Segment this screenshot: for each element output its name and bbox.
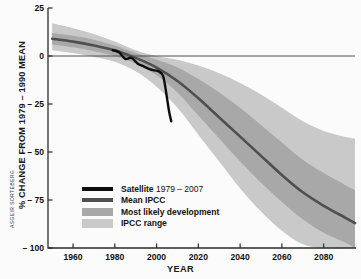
legend-swatch-satellite [82, 187, 113, 191]
legend-label-satellite: Satellite 1979 – 2007 [121, 184, 203, 194]
chart-figure: ASGEIR SORTEBERG % CHANGE FROM 1979 – 19… [0, 0, 361, 279]
legend-label-ipcc-range: IPCC range [121, 218, 167, 228]
legend-swatch-ipcc-range [82, 219, 113, 228]
legend-swatch-mean-ipcc [82, 198, 113, 202]
legend-label-mean-ipcc: Mean IPCC [121, 195, 165, 205]
legend-item-ipcc-range: IPCC range [82, 218, 219, 230]
legend-item-most-likely: Most likely development [82, 206, 219, 218]
plot-canvas [0, 0, 361, 279]
legend-item-mean-ipcc: Mean IPCC [82, 195, 219, 207]
chart-legend: Satellite 1979 – 2007 Mean IPCC Most lik… [82, 183, 219, 229]
legend-swatch-most-likely [82, 208, 113, 217]
legend-label-most-likely: Most likely development [121, 207, 219, 217]
legend-item-satellite: Satellite 1979 – 2007 [82, 183, 219, 195]
